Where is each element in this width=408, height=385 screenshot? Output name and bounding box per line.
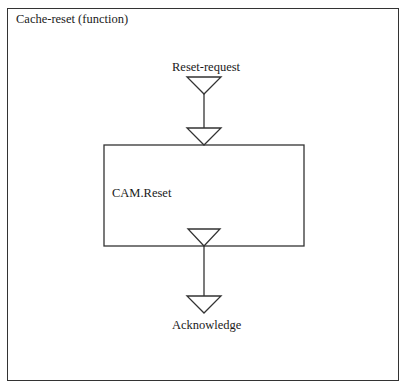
box-entry-triangle-icon xyxy=(187,128,221,145)
box-exit-triangle-icon xyxy=(188,229,220,246)
output-port-label: Acknowledge xyxy=(172,318,241,333)
input-port-triangle-icon xyxy=(187,77,221,94)
process-label: CAM.Reset xyxy=(112,186,171,201)
input-port-label: Reset-request xyxy=(172,60,240,75)
output-port-triangle-icon xyxy=(187,296,221,313)
